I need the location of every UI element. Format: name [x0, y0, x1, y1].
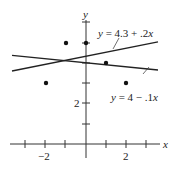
line1-x: x [148, 27, 153, 39]
y-tick-label-2: 2 [74, 98, 80, 109]
x-axis-label: x [163, 139, 168, 150]
x-tick-label-neg2: −2 [38, 151, 50, 162]
data-point [124, 81, 128, 85]
line2-eq: = 4 − .1 [116, 91, 153, 103]
chart-canvas [0, 0, 173, 171]
line-label-4.3-plus-0.2x: y = 4.3 + .2x [98, 28, 153, 39]
data-point [64, 41, 68, 45]
line2-x: x [153, 91, 158, 103]
data-point [84, 41, 88, 45]
data-point [104, 61, 108, 65]
line-label-4-minus-0.1x: y = 4 − .1x [111, 92, 158, 103]
regression-line-4-minus-0.1x [12, 55, 158, 70]
regression-line-4.3-plus-0.2x [12, 42, 158, 71]
x-tick-label-2: 2 [123, 151, 129, 162]
y-axis-label: y [83, 9, 88, 20]
data-point [44, 81, 48, 85]
line1-eq: = 4.3 + .2 [103, 27, 148, 39]
label-leader-line-1 [113, 38, 119, 49]
